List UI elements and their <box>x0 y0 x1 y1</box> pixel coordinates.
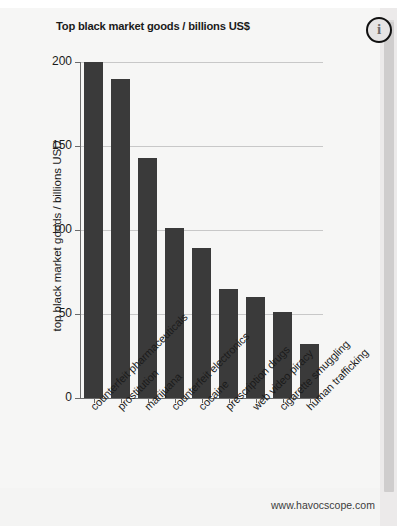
screenshot-root: i Top black market goods / billions US$ … <box>0 0 397 526</box>
y-tick-label-wrap: 50 <box>20 306 72 320</box>
y-tick-label-wrap: 100 <box>20 222 72 236</box>
y-tick-label-wrap: 0 <box>20 390 72 404</box>
gridline <box>80 62 323 63</box>
y-tick-label: 0 <box>20 390 72 404</box>
bar <box>84 62 104 398</box>
y-tick-label-wrap: 150 <box>20 138 72 152</box>
y-tick-label-wrap: 200 <box>20 54 72 68</box>
bar <box>111 79 131 398</box>
bar-chart: 050100150200 top black market goods / bi… <box>0 0 397 526</box>
y-axis-line <box>80 62 81 399</box>
source-url: www.havocscope.com <box>271 499 375 511</box>
y-axis-title: top black market goods / billions USD <box>51 136 63 336</box>
y-tick-label: 100 <box>20 222 72 236</box>
y-tick-label: 200 <box>20 54 72 68</box>
y-tick-label: 150 <box>20 138 72 152</box>
y-tick-label: 50 <box>20 306 72 320</box>
